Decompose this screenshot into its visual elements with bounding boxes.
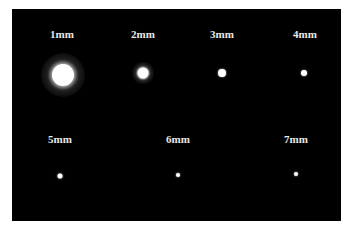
light-spot (138, 68, 149, 79)
spot-label: 3mm (210, 28, 234, 40)
light-spot (301, 70, 307, 76)
spot-image-panel (12, 9, 341, 221)
spot-label: 7mm (284, 133, 308, 145)
spot-label: 5mm (48, 133, 72, 145)
spot-label: 6mm (166, 133, 190, 145)
light-spot (294, 172, 298, 176)
light-spot (58, 174, 63, 179)
spot-label: 2mm (131, 28, 155, 40)
spot-label: 4mm (293, 28, 317, 40)
light-spot (218, 69, 226, 77)
light-spot (52, 64, 74, 86)
spot-label: 1mm (50, 28, 74, 40)
light-spot (176, 173, 180, 177)
